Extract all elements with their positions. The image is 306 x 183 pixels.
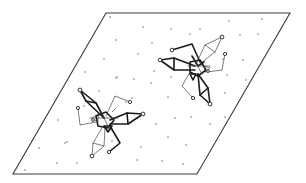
- lattice-point: [137, 53, 138, 54]
- lattice-point: [245, 79, 246, 80]
- lattice-point: [170, 76, 171, 77]
- lattice-point: [226, 74, 227, 75]
- lattice-point: [228, 20, 229, 21]
- lattice-point: [185, 144, 186, 145]
- lattice-point: [257, 33, 258, 34]
- lattice-plane: [13, 13, 290, 174]
- lattice-point: [125, 101, 126, 102]
- lattice-point: [131, 97, 132, 98]
- lattice-point: [136, 159, 137, 160]
- lattice-point: [242, 59, 243, 60]
- lattice-point: [150, 82, 151, 83]
- lattice-point: [224, 116, 225, 117]
- diagram-canvas: [0, 0, 306, 183]
- lattice-point: [182, 163, 183, 164]
- lattice-point: [174, 117, 175, 118]
- lattice-point: [84, 71, 85, 72]
- lattice-point: [38, 147, 39, 148]
- lattice-point: [133, 78, 134, 79]
- lattice-point: [98, 90, 99, 91]
- lattice-point: [189, 33, 190, 34]
- lattice-point: [222, 58, 223, 59]
- lattice-point: [199, 28, 200, 29]
- lattice-point: [109, 16, 110, 17]
- lattice-point: [167, 96, 168, 97]
- lattice-point: [224, 92, 225, 93]
- lattice-point: [24, 169, 25, 170]
- lattice-point: [151, 42, 152, 43]
- lattice-point: [83, 105, 84, 106]
- lattice-point: [115, 77, 116, 78]
- lattice-point: [115, 39, 116, 40]
- lattice-point: [142, 26, 143, 27]
- lattice-point: [155, 123, 156, 124]
- lattice-point: [111, 140, 112, 141]
- lattice-point: [56, 162, 57, 163]
- lattice-point: [190, 116, 191, 117]
- lattice-point: [239, 34, 240, 35]
- lattice-point: [153, 70, 154, 71]
- lattice-point: [103, 58, 104, 59]
- lattice-point: [140, 146, 141, 147]
- lattice-diagram: [0, 0, 306, 183]
- lattice-point: [76, 162, 77, 163]
- lattice-point: [261, 18, 262, 19]
- lattice-point: [209, 123, 210, 124]
- lattice-point: [170, 28, 171, 29]
- lattice-point: [116, 76, 117, 77]
- lattice-point: [161, 160, 162, 161]
- lattice-point: [64, 142, 65, 143]
- lattice-point: [57, 119, 58, 120]
- lattice-point: [66, 141, 67, 142]
- lattice-point: [167, 136, 168, 137]
